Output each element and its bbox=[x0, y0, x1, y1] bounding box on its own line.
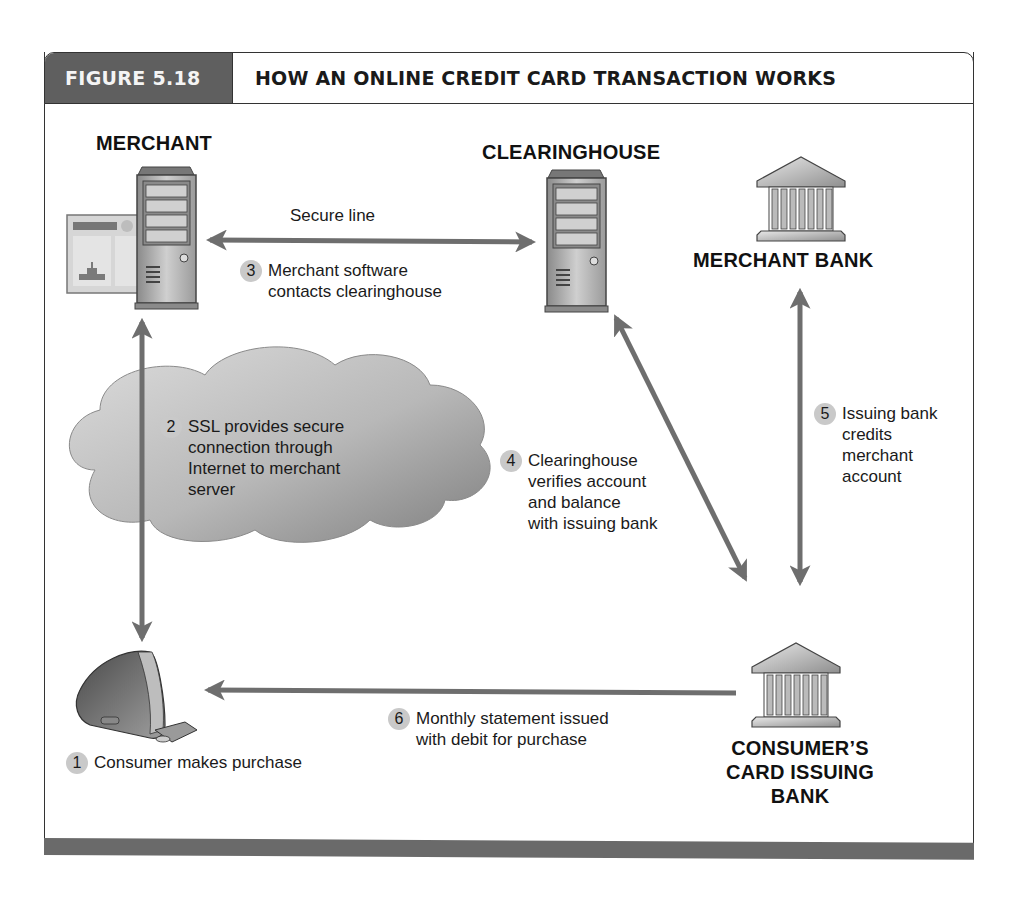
step-number-badge: 3 bbox=[240, 260, 262, 282]
merchant-bank-icon bbox=[757, 157, 845, 241]
step-number-badge: 6 bbox=[388, 708, 410, 730]
monthly-statement-arrow bbox=[208, 690, 736, 693]
step-number-badge: 1 bbox=[66, 752, 88, 774]
step-number-badge: 4 bbox=[500, 450, 522, 472]
clearinghouse-server-icon bbox=[545, 170, 608, 312]
step-number-badge: 2 bbox=[160, 416, 182, 438]
step-4: 4 Clearinghouse verifies account and bal… bbox=[500, 450, 657, 534]
consumer-bank-icon bbox=[752, 643, 840, 727]
step-number-badge: 5 bbox=[814, 403, 836, 425]
merchant-bank-label: MERCHANT BANK bbox=[693, 248, 873, 272]
step-5: 5 Issuing bank credits merchant account bbox=[814, 403, 937, 487]
step-3: 3 Merchant software contacts clearinghou… bbox=[240, 260, 442, 302]
clearinghouse-label: CLEARINGHOUSE bbox=[482, 140, 660, 164]
consumer-computer-icon bbox=[76, 651, 197, 742]
consumer-bank-label: CONSUMER’S CARD ISSUING BANK bbox=[705, 736, 895, 808]
merchant-server-icon bbox=[135, 167, 198, 309]
step-6: 6 Monthly statement issued with debit fo… bbox=[388, 708, 609, 750]
step-2: 2 SSL provides secure connection through… bbox=[160, 416, 344, 500]
merchant-label: MERCHANT bbox=[96, 131, 212, 155]
secure-line-arrow bbox=[210, 240, 532, 242]
verification-arrow bbox=[616, 318, 745, 578]
step-1: 1Consumer makes purchase bbox=[66, 752, 302, 774]
secure-line-label: Secure line bbox=[290, 206, 375, 226]
